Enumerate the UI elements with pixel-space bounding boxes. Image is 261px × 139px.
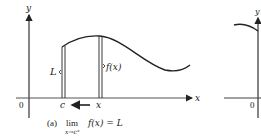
origin-label: 0 — [19, 100, 24, 110]
x-axis-label: x — [195, 93, 200, 103]
y-axis-label-b: y — [254, 7, 260, 16]
y-axis-label: y — [25, 3, 32, 13]
x-point-label: x — [96, 100, 101, 110]
caption-expression: f(x) = L — [87, 118, 123, 128]
caption-lim: lim — [66, 118, 78, 128]
limit-diagram: y x 0 L f(x) c x (a) lim x→c⁺ f(x) = L y — [0, 0, 261, 139]
brace-fx — [103, 64, 105, 68]
function-curve — [62, 36, 190, 71]
fx-label: f(x) — [105, 62, 122, 72]
function-curve-b — [234, 24, 258, 31]
panel-b: y 0 — [224, 7, 261, 118]
caption-tag: (a) — [47, 118, 57, 128]
origin-label-b: 0 — [250, 100, 255, 110]
limit-L-label: L — [49, 66, 57, 77]
panel-a: y x 0 L f(x) c x (a) lim x→c⁺ f(x) = L — [16, 3, 200, 135]
c-label: c — [60, 100, 65, 110]
caption-subscript: x→c⁺ — [65, 128, 80, 135]
brace-L — [59, 70, 61, 74]
